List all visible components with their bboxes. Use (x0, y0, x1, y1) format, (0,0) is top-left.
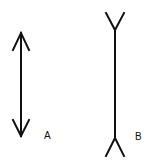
figure-a-double-arrow (13, 33, 29, 136)
muller-lyer-diagram (0, 0, 151, 166)
figure-b-bottom-fins (106, 138, 124, 156)
figure-b-label: B (135, 132, 142, 142)
figure-b-top-fins (106, 13, 124, 30)
figure-a-label: A (44, 131, 51, 141)
figure-b-fin-line (106, 13, 124, 156)
